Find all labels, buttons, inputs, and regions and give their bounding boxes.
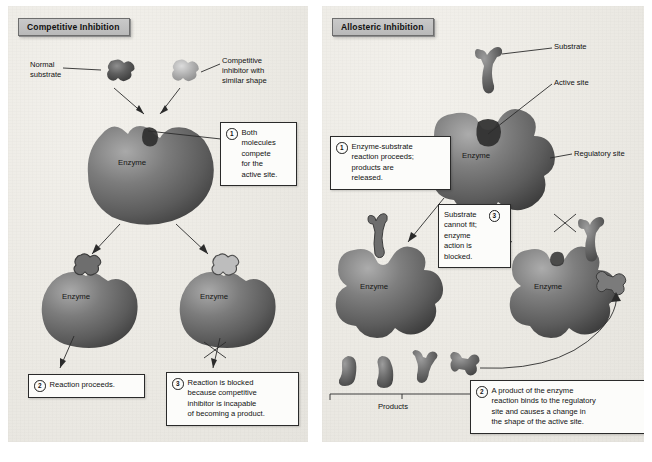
- product-molecule-4: [448, 350, 482, 382]
- product-molecule-1: [336, 354, 362, 388]
- callout-competitive-3: 3 Reaction is blocked because competitiv…: [166, 372, 299, 426]
- product-bound-regulatory-site: [594, 268, 628, 298]
- substrate-molecule-top: [472, 44, 504, 96]
- callout-allosteric-2: 2 A product of the enzyme reaction binds…: [470, 380, 644, 434]
- callout-number-1: 1: [226, 128, 238, 140]
- label-substrate: Substrate: [554, 42, 587, 52]
- callout-competitive-1: 1 Both molecules compete for the active …: [220, 122, 297, 186]
- callout-number-a3: 3: [489, 210, 501, 222]
- panel-competitive-inhibition: Competitive Inhibition: [8, 6, 308, 442]
- callout-allosteric-1: 1 Enzyme-substrate reaction proceeds; pr…: [330, 136, 451, 190]
- enzyme-label-right: Enzyme: [200, 292, 228, 301]
- product-molecule-2: [372, 354, 398, 390]
- label-normal-substrate: Normal substrate: [30, 60, 61, 80]
- callout-allosteric-3: 3 Substrate cannot fit; enzyme action is…: [438, 204, 511, 268]
- label-competitive-inhibitor: Competitive inhibitor with similar shape: [222, 56, 267, 86]
- panel-allosteric-inhibition: Allosteric Inhibition: [322, 6, 644, 442]
- label-products: Products: [378, 402, 408, 412]
- enzyme-blob-top: [80, 104, 220, 226]
- callout-text-3: Reaction is blocked because competitive …: [188, 378, 265, 420]
- panel-title-allosteric: Allosteric Inhibition: [332, 18, 434, 36]
- enzyme-label-top: Enzyme: [118, 158, 146, 167]
- callout-text-a1: Enzyme-substrate reaction proceeds; prod…: [352, 142, 414, 184]
- bound-inhibitor-right: [208, 252, 242, 278]
- callout-number-a1: 1: [336, 142, 348, 154]
- callout-text-2: Reaction proceeds.: [50, 380, 115, 390]
- bound-substrate-left: [70, 252, 104, 278]
- callout-number-3: 3: [172, 378, 184, 390]
- bound-substrate-left-allosteric: [366, 212, 388, 260]
- rejected-substrate-molecule: [576, 214, 606, 264]
- enzyme-label-left: Enzyme: [62, 292, 90, 301]
- enzyme-label-left-allosteric: Enzyme: [360, 282, 388, 291]
- panel-title-competitive: Competitive Inhibition: [18, 18, 130, 36]
- callout-number-2: 2: [34, 380, 46, 392]
- product-molecule-3: [410, 350, 440, 386]
- enzyme-inhibition-figure: Competitive Inhibition: [0, 0, 652, 462]
- label-regulatory-site: Regulatory site: [574, 149, 625, 159]
- normal-substrate-molecule: [103, 56, 139, 86]
- competitive-inhibitor-molecule: [168, 56, 202, 86]
- label-active-site: Active site: [554, 78, 589, 88]
- callout-competitive-2: 2 Reaction proceeds.: [28, 374, 145, 398]
- callout-text-1: Both molecules compete for the active si…: [242, 128, 278, 180]
- callout-text-a2: A product of the enzyme reaction binds t…: [492, 386, 596, 428]
- callout-number-a2: 2: [476, 386, 488, 398]
- enzyme-label-top-allosteric: Enzyme: [462, 151, 490, 160]
- enzyme-label-right-allosteric: Enzyme: [534, 282, 562, 291]
